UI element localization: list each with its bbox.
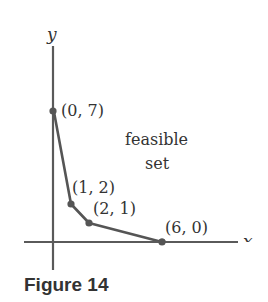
point-2-1 <box>85 219 92 226</box>
point-1-2 <box>67 200 74 207</box>
point-label-2-1: (2, 1) <box>93 199 136 218</box>
point-label-0-7: (0, 7) <box>61 101 104 120</box>
region-label-set: set <box>145 154 170 173</box>
feasible-set-diagram: y x (0, 7) (1, 2) (2, 1) (6, 0) feasible… <box>0 0 268 242</box>
figure-caption: Figure 14 <box>24 274 108 296</box>
region-label-feasible: feasible <box>125 130 188 149</box>
point-label-1-2: (1, 2) <box>72 178 115 197</box>
point-label-6-0: (6, 0) <box>165 218 208 237</box>
y-axis-label: y <box>46 24 57 44</box>
point-0-7 <box>49 107 56 114</box>
point-6-0 <box>158 238 165 242</box>
x-axis-label: x <box>243 231 253 242</box>
